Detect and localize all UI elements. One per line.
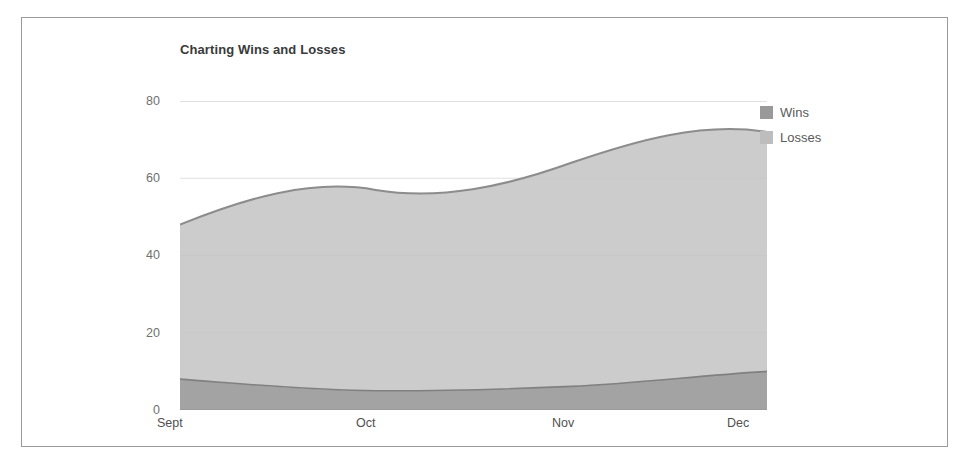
plot-area <box>180 101 767 410</box>
legend-label-losses: Losses <box>780 130 821 145</box>
x-axis-tick-oct: Oct <box>356 416 375 430</box>
chart-legend: Wins Losses <box>760 102 880 152</box>
legend-swatch-losses <box>760 131 773 144</box>
legend-item-wins[interactable]: Wins <box>760 102 880 123</box>
x-axis-tick-sept: Sept <box>157 416 183 430</box>
y-axis-tick-0: 0 <box>120 403 160 417</box>
x-axis-tick-dec: Dec <box>727 416 749 430</box>
x-axis-tick-nov: Nov <box>552 416 574 430</box>
legend-item-losses[interactable]: Losses <box>760 127 880 148</box>
y-axis-tick-40: 40 <box>120 248 160 262</box>
chart-frame: Charting Wins and Losses 80 60 40 20 0 <box>21 17 948 447</box>
stacked-area-chart <box>180 101 767 410</box>
legend-label-wins: Wins <box>780 105 809 120</box>
chart-screenshot: Charting Wins and Losses 80 60 40 20 0 <box>0 0 961 461</box>
chart-title: Charting Wins and Losses <box>180 42 346 57</box>
y-axis-tick-20: 20 <box>120 326 160 340</box>
legend-swatch-wins <box>760 106 773 119</box>
area-losses <box>180 129 767 391</box>
y-axis-tick-80: 80 <box>120 94 160 108</box>
y-axis-tick-60: 60 <box>120 171 160 185</box>
